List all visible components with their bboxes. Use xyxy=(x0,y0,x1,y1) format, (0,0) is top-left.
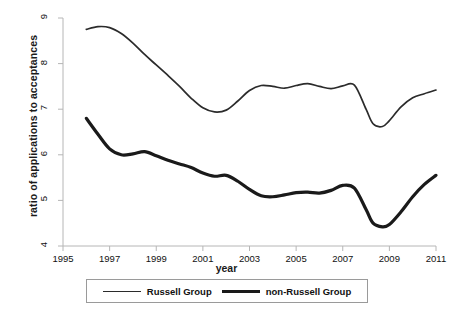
series-line-russell-group xyxy=(86,27,436,127)
x-axis-tick-label: 2003 xyxy=(233,253,267,264)
x-axis-tick-label: 2005 xyxy=(279,253,313,264)
legend-label: Russell Group xyxy=(147,286,212,297)
legend-line-icon xyxy=(103,291,141,292)
y-axis-tick-label: 6 xyxy=(38,145,49,161)
y-axis-tick-label: 4 xyxy=(38,237,49,253)
x-axis-tick-label: 1999 xyxy=(139,253,173,264)
y-axis-tick-label: 7 xyxy=(38,100,49,116)
x-axis-tick-label: 1997 xyxy=(93,253,127,264)
x-axis-tick-label: 2009 xyxy=(372,253,406,264)
chart-legend: Russell Group non-Russell Group xyxy=(86,279,368,303)
legend-entry-russell[interactable]: Russell Group xyxy=(103,286,212,297)
chart-figure: ratio of applications to acceptances yea… xyxy=(0,0,453,313)
x-axis-tick-label: 1995 xyxy=(46,253,80,264)
chart-series xyxy=(86,27,436,227)
x-axis-tick-label: 2001 xyxy=(186,253,220,264)
series-line-non-russell-group xyxy=(86,118,436,227)
x-axis-tick-label: 2007 xyxy=(326,253,360,264)
y-axis-tick-label: 8 xyxy=(38,54,49,70)
y-axis-tick-label: 9 xyxy=(38,9,49,25)
chart-axes xyxy=(58,18,436,251)
legend-label: non-Russell Group xyxy=(266,286,352,297)
y-axis-tick-label: 5 xyxy=(38,191,49,207)
legend-line-icon xyxy=(222,290,260,293)
legend-entry-non-russell[interactable]: non-Russell Group xyxy=(222,286,352,297)
x-axis-tick-label: 2011 xyxy=(419,253,453,264)
